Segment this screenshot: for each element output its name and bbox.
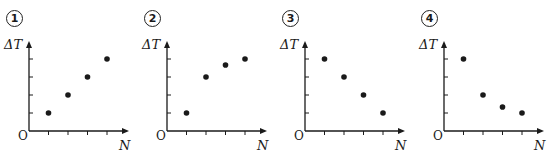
data-point <box>322 56 328 62</box>
data-point <box>519 110 525 116</box>
data-point <box>500 104 506 110</box>
chart-panel-1: 1 ΔT O N <box>0 0 138 156</box>
y-axis-arrow-icon <box>441 41 447 48</box>
y-axis-arrow-icon <box>164 41 170 48</box>
data-point <box>203 74 209 80</box>
data-point <box>85 74 91 80</box>
y-axis-arrow-icon <box>302 41 308 48</box>
x-axis-arrow-icon <box>398 128 405 134</box>
plot-area <box>138 0 276 156</box>
plot-area <box>0 0 138 156</box>
x-axis-arrow-icon <box>122 128 129 134</box>
data-point <box>104 56 110 62</box>
data-point <box>184 110 190 116</box>
data-point <box>242 56 248 62</box>
data-point <box>341 74 347 80</box>
data-point <box>461 56 467 62</box>
data-point <box>361 92 367 98</box>
data-point <box>480 92 486 98</box>
chart-panel-4: 4 ΔT O N <box>415 0 552 156</box>
plot-area <box>276 0 414 156</box>
y-axis-arrow-icon <box>26 41 32 48</box>
chart-panel-3: 3 ΔT O N <box>276 0 414 156</box>
data-point <box>380 110 386 116</box>
x-axis-arrow-icon <box>537 128 544 134</box>
plot-area <box>415 0 552 156</box>
data-point <box>46 110 52 116</box>
data-point <box>65 92 71 98</box>
x-axis-arrow-icon <box>260 128 267 134</box>
chart-panel-2: 2 ΔT O N <box>138 0 276 156</box>
data-point <box>223 62 229 68</box>
